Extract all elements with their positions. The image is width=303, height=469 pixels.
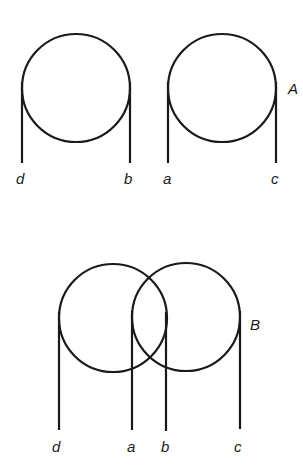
pulley-b-left bbox=[59, 264, 167, 372]
label-d-a: d bbox=[16, 170, 25, 187]
label-d-b: d bbox=[52, 438, 61, 455]
figure-a: d b a c A bbox=[16, 34, 298, 187]
label-b-b: b bbox=[161, 438, 169, 455]
figure-b: d a b c B bbox=[52, 263, 260, 455]
label-c-a: c bbox=[271, 170, 279, 187]
pulley-b-right bbox=[132, 263, 240, 371]
label-a-a: a bbox=[163, 170, 171, 187]
pulley-diagram: d b a c A d a b c B bbox=[0, 0, 303, 469]
pulley-a-right bbox=[168, 34, 276, 142]
pulley-a-left bbox=[22, 34, 130, 142]
label-b-a: b bbox=[124, 170, 132, 187]
figure-label-a: A bbox=[287, 80, 298, 97]
label-c-b: c bbox=[234, 438, 242, 455]
figure-label-b: B bbox=[250, 316, 260, 333]
label-a-b: a bbox=[127, 438, 135, 455]
